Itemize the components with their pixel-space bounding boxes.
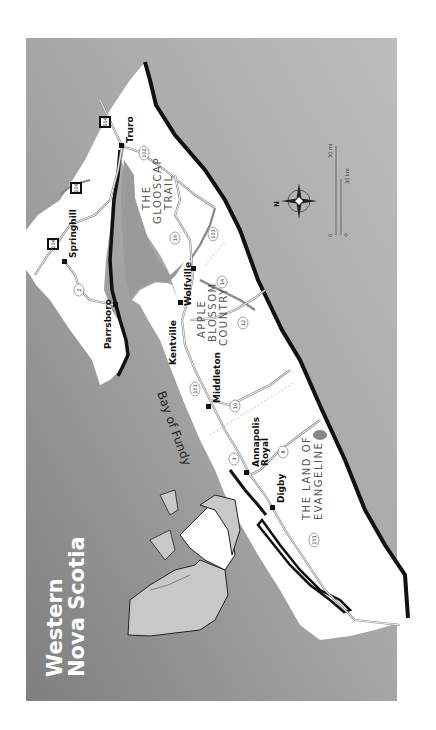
route-8: 8 — [280, 450, 286, 453]
tch-104-truro: 104 — [102, 117, 108, 127]
route-102: 102 — [141, 148, 147, 158]
tch-104-springhill: 104 — [50, 239, 56, 249]
route-101-west: 101 — [311, 535, 317, 545]
compass-north-label: N — [273, 201, 281, 207]
route-2: 2 — [76, 288, 82, 291]
route-10: 10 — [232, 403, 238, 409]
map-canvas: Truro Springhill Parrsboro Wolfville Ken… — [0, 0, 436, 730]
scale-km: 30 km — [344, 168, 350, 184]
region-evangeline-1: THE LAND OF — [301, 436, 312, 521]
town-label-truro: Truro — [125, 116, 135, 143]
town-marker-springhill — [62, 259, 67, 264]
region-apple-3: COUNTRY — [218, 287, 229, 346]
town-marker-annapolis-royal — [244, 470, 249, 475]
map-title-line2: Nova Scotia — [65, 536, 89, 677]
route-12: 12 — [240, 320, 246, 326]
route-14-south: 14 — [219, 279, 225, 285]
town-label-kentville: Kentville — [168, 320, 178, 365]
region-apple-1: APPLE — [196, 300, 207, 338]
town-marker-middleton — [206, 404, 211, 409]
town-label-parrsboro: Parrsboro — [103, 299, 113, 349]
region-glooscap-1: THE — [141, 186, 152, 211]
town-label-digby: Digby — [276, 474, 286, 503]
town-label-middleton: Middleton — [212, 352, 222, 403]
tch-104-middle: 104 — [73, 183, 79, 193]
route-1: 1 — [231, 457, 237, 460]
lake — [313, 430, 327, 440]
route-101-middle: 101 — [192, 384, 198, 394]
town-marker-truro — [119, 143, 124, 148]
region-glooscap-3: TRAIL — [163, 174, 174, 211]
town-label-wolfville: Wolfville — [183, 262, 193, 306]
map-title-line1: Western — [43, 578, 67, 677]
town-marker-digby — [270, 505, 275, 510]
town-marker-parrsboro — [113, 302, 118, 307]
town-label-springhill: Springhill — [68, 209, 78, 258]
region-glooscap-2: GLOOSCAP — [152, 157, 163, 224]
route-14-north: 14 — [172, 235, 178, 241]
scale-zero: 0 — [327, 234, 333, 237]
route-101-east: 101 — [210, 229, 216, 239]
region-evangeline-2: EVANGELINE — [313, 442, 324, 520]
scale-miles: 30 mi — [327, 144, 333, 158]
town-label-royal: Royal — [260, 438, 270, 466]
region-apple-2: BLOSSOM — [207, 282, 218, 342]
